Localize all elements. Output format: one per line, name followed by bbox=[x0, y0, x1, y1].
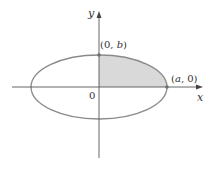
top-vertex-label: (0, b) bbox=[100, 39, 127, 50]
x-axis-label: x bbox=[197, 91, 204, 104]
ellipse-figure: y x 0 (0, b) (a, 0) bbox=[0, 0, 211, 169]
y-axis-arrow-icon bbox=[97, 11, 102, 18]
point-top-vertex bbox=[97, 53, 101, 57]
diagram-canvas: y x 0 (0, b) (a, 0) bbox=[0, 0, 211, 169]
x-axis-arrow-icon bbox=[196, 85, 203, 90]
point-right-vertex bbox=[165, 85, 169, 89]
right-vertex-label: (a, 0) bbox=[171, 73, 198, 84]
origin-label: 0 bbox=[89, 90, 95, 101]
y-axis-label: y bbox=[87, 7, 95, 20]
